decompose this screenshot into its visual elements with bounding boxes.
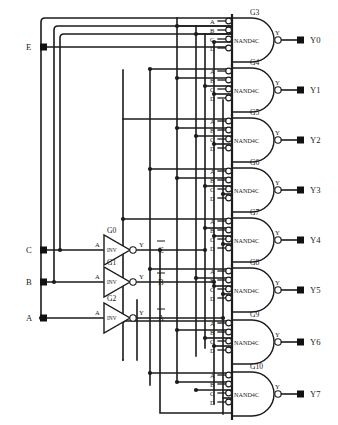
nand-ref-g6: G6 <box>250 158 259 167</box>
nand-gate-g9[interactable]: G9NAND4CABCDYY6 <box>210 310 321 368</box>
output-label-y4: Y4 <box>310 235 321 245</box>
nand-gate-g4[interactable]: G4NAND4CABCDYY1 <box>210 58 321 116</box>
nand-pin-label-d: D <box>210 347 215 354</box>
nand-output-bubble <box>275 287 281 293</box>
nand-input-bubble-b <box>226 381 232 387</box>
nand-input-bubble-d <box>226 245 232 251</box>
inverter-ref-g0: G0 <box>107 226 116 235</box>
inverter-out-label-g1: B <box>158 277 164 287</box>
nand-gate-g7[interactable]: G7NAND4CABCDYY4 <box>210 208 321 266</box>
output-label-y6: Y6 <box>310 337 321 347</box>
nand-pin-label-a: A <box>210 168 215 175</box>
output-terminal-y3[interactable] <box>297 187 304 194</box>
nand-type-g7: NAND4C <box>234 237 259 244</box>
nand-input-bubble-a <box>226 218 232 224</box>
nand-input-bubble-d <box>226 95 232 101</box>
nand-pin-label-b: B <box>210 381 215 388</box>
nand-pin-label-d: D <box>210 145 215 152</box>
nand-pin-label-c: C <box>210 86 215 93</box>
nand-pin-label-d: D <box>210 95 215 102</box>
input-label-a: A <box>26 313 33 323</box>
nand-input-bubble-d <box>226 399 232 405</box>
nand-pin-label-a: A <box>210 118 215 125</box>
nand-output-pin-label: Y <box>275 29 280 36</box>
nand-output-bubble <box>275 391 281 397</box>
nand-input-bubble-b <box>226 329 232 335</box>
nand-pin-label-b: B <box>210 127 215 134</box>
nand-pin-label-c: C <box>210 236 215 243</box>
nand-pin-label-a: A <box>210 320 215 327</box>
nand-output-bubble <box>275 339 281 345</box>
nand-output-bubble <box>275 137 281 143</box>
inverter-output-bubble <box>130 279 136 285</box>
vertical-bus-complement <box>123 70 223 414</box>
output-terminal-y4[interactable] <box>297 237 304 244</box>
inverter-pin-a-g0: A <box>95 241 100 248</box>
nand-pin-label-d: D <box>210 399 215 406</box>
inverter-pin-y-g2: Y <box>139 309 144 316</box>
input-terminal-b[interactable]: B <box>26 277 47 287</box>
nand-input-bubble-c <box>226 36 232 42</box>
nand-gate-layer: G3NAND4CABCDYY0G4NAND4CABCDYY1G5NAND4CAB… <box>210 8 321 420</box>
nand-pin-label-b: B <box>210 77 215 84</box>
nand-pin-label-d: D <box>210 45 215 52</box>
input-terminal-e[interactable]: E <box>26 42 47 52</box>
nand-output-bubble <box>275 187 281 193</box>
nand-input-bubble-a <box>226 320 232 326</box>
nand-pin-label-b: B <box>210 27 215 34</box>
nand-pin-label-c: C <box>210 286 215 293</box>
inverter-out-label-g0: C <box>158 245 164 255</box>
nand-ref-g8: G8 <box>250 258 259 267</box>
inverter-ref-g1: G1 <box>107 258 116 267</box>
nand-output-pin-label: Y <box>275 179 280 186</box>
nand-gate-g6[interactable]: G6NAND4CABCDYY3 <box>210 158 321 216</box>
inverter-g2[interactable]: G2 INV A Y A <box>95 294 165 333</box>
nand-input-bubble-a <box>226 18 232 24</box>
nand-pin-label-b: B <box>210 329 215 336</box>
nand-output-pin-label: Y <box>275 229 280 236</box>
nand-pin-label-a: A <box>210 372 215 379</box>
nand-input-bubble-d <box>226 347 232 353</box>
nand-gate-g3[interactable]: G3NAND4CABCDYY0 <box>210 8 321 66</box>
input-terminal-a[interactable]: A <box>26 313 47 323</box>
nand-input-bubble-b <box>226 177 232 183</box>
nand-input-bubble-d <box>226 45 232 51</box>
nand-gate-g8[interactable]: G8NAND4CABCDYY5 <box>210 258 321 316</box>
nand-output-pin-label: Y <box>275 129 280 136</box>
inverter-pin-y-g0: Y <box>139 241 144 248</box>
output-terminal-y6[interactable] <box>297 339 304 346</box>
nand-input-bubble-a <box>226 118 232 124</box>
schematic-canvas: E C B A G0 INV A Y C G1 <box>0 0 338 425</box>
nand-input-bubble-c <box>226 338 232 344</box>
nand-input-bubble-a <box>226 268 232 274</box>
nand-input-bubble-b <box>226 27 232 33</box>
input-label-b: B <box>26 277 32 287</box>
nand-gate-g5[interactable]: G5NAND4CABCDYY2 <box>210 108 321 166</box>
logic-diagram: E C B A G0 INV A Y C G1 <box>0 0 338 425</box>
output-label-y5: Y5 <box>310 285 321 295</box>
nand-input-bubble-d <box>226 145 232 151</box>
output-terminal-y7[interactable] <box>297 391 304 398</box>
nand-input-bubble-d <box>226 195 232 201</box>
input-terminal-c[interactable]: C <box>26 245 47 255</box>
top-bus-rails <box>41 18 232 318</box>
nand-ref-g9: G9 <box>250 310 259 319</box>
output-terminal-y0[interactable] <box>297 37 304 44</box>
output-terminal-y5[interactable] <box>297 287 304 294</box>
output-terminal-y1[interactable] <box>297 87 304 94</box>
inverter-pin-y-g1: Y <box>139 273 144 280</box>
inverter-out-label-g2: A <box>158 313 165 323</box>
input-label-c: C <box>26 245 32 255</box>
nand-pin-label-b: B <box>210 277 215 284</box>
nand-ref-g3: G3 <box>250 8 259 17</box>
nand-pin-label-c: C <box>210 338 215 345</box>
nand-pin-label-c: C <box>210 136 215 143</box>
nand-input-bubble-a <box>226 372 232 378</box>
nand-pin-label-a: A <box>210 218 215 225</box>
nand-pin-label-b: B <box>210 227 215 234</box>
nand-type-g10: NAND4C <box>234 391 259 398</box>
output-terminal-y2[interactable] <box>297 137 304 144</box>
nand-gate-g10[interactable]: G10NAND4CABCDYY7 <box>210 362 321 420</box>
output-label-y7: Y7 <box>310 389 321 399</box>
inverter-g0[interactable]: G0 INV A Y C <box>95 226 165 265</box>
